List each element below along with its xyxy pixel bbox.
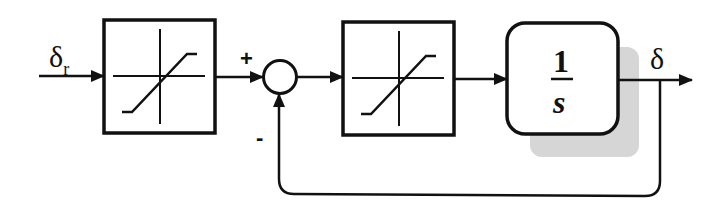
input-label: δr: [49, 42, 69, 72]
integrator-denominator: s: [553, 86, 565, 118]
saturation-block-2: [343, 22, 454, 135]
summing-junction: [264, 61, 297, 94]
output-label: δ: [650, 44, 664, 74]
input-symbol: δ: [49, 40, 63, 73]
saturation-block-1: [104, 20, 215, 133]
block-diagram: [0, 0, 723, 210]
minus-sign: -: [256, 127, 263, 149]
input-subscript: r: [63, 59, 69, 79]
integrator-numerator: 1: [553, 45, 569, 77]
plus-sign: +: [240, 48, 253, 70]
